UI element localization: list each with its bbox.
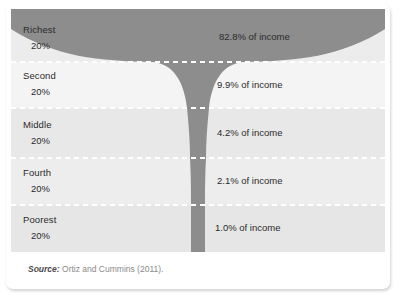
divider-4 xyxy=(11,204,385,206)
row-label-second: Second xyxy=(23,70,56,81)
divider-2 xyxy=(11,107,385,109)
row-label-richest: Richest xyxy=(23,24,55,35)
source-note: Source: Ortiz and Cummins (2011). xyxy=(28,264,163,274)
row-population-richest: 20% xyxy=(31,40,50,51)
row-population-middle: 20% xyxy=(31,135,50,146)
row-value-fourth: 2.1% of income xyxy=(217,175,282,186)
row-label-middle: Middle xyxy=(23,119,52,130)
figure-card: Richest 20% 82.8% of income Second 20% 9… xyxy=(6,4,390,289)
row-value-richest: 82.8% of income xyxy=(219,31,290,42)
divider-3 xyxy=(11,157,385,159)
row-population-poorest: 20% xyxy=(31,230,50,241)
row-population-second: 20% xyxy=(31,86,50,97)
funnel-chart: Richest 20% 82.8% of income Second 20% 9… xyxy=(11,9,385,252)
row-label-poorest: Poorest xyxy=(23,214,56,225)
source-label: Source: xyxy=(28,264,60,274)
funnel-shape-icon xyxy=(11,9,385,252)
row-value-second: 9.9% of income xyxy=(217,79,282,90)
row-value-middle: 4.2% of income xyxy=(217,127,282,138)
row-population-fourth: 20% xyxy=(31,183,50,194)
row-label-fourth: Fourth xyxy=(23,167,51,178)
divider-1 xyxy=(11,61,385,63)
source-citation: Ortiz and Cummins (2011). xyxy=(60,264,164,274)
row-value-poorest: 1.0% of income xyxy=(215,222,280,233)
